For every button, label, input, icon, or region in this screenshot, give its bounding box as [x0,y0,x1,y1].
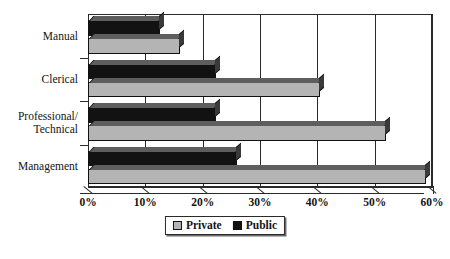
legend-item-private: Private [173,219,222,231]
bar-chart: ManualClericalProfessional/ TechnicalMan… [0,0,450,259]
x-tick-mark-50% [371,186,380,194]
x-tick-label-30%: 30% [249,196,272,208]
bar-private-2 [88,82,320,98]
legend-label-public: Public [246,219,277,231]
x-axis [80,186,432,195]
category-label-3: Professional/ Technical [18,110,78,135]
x-tick-mark-10% [141,186,150,194]
x-tick-mark-30% [256,186,265,194]
category-tick [80,145,89,146]
x-tick-mark-0% [84,186,93,194]
bar-public-2 [88,64,216,80]
legend-item-public: Public [233,219,277,231]
x-tick-mark-60% [428,186,437,194]
gridline-30% [260,14,261,188]
bar-private-4 [88,169,426,185]
gridline-60% [432,14,433,188]
category-label-1: Manual [43,30,78,43]
x-tick-mark-20% [199,186,208,194]
x-tick-label-60%: 60% [421,196,444,208]
gridline-50% [375,14,376,188]
category-label-2: Clerical [42,73,78,86]
bar-public-4 [88,151,237,167]
public-swatch-icon [233,221,242,230]
x-tick-label-0%: 0% [79,196,96,208]
category-tick [80,58,89,59]
gridline-40% [317,14,318,188]
bar-private-1 [88,38,180,54]
caption-cutoff-strip [0,253,450,259]
x-tick-label-10%: 10% [134,196,157,208]
legend-label-private: Private [186,219,222,231]
x-tick-mark-40% [313,186,322,194]
category-tick [80,101,89,102]
x-tick-label-40%: 40% [306,196,329,208]
private-swatch-icon [173,221,182,230]
bar-private-3 [88,125,386,141]
category-label-4: Management [18,160,78,173]
chart-legend: Private Public [165,216,285,235]
x-tick-label-50%: 50% [363,196,386,208]
x-tick-label-20%: 20% [191,196,214,208]
